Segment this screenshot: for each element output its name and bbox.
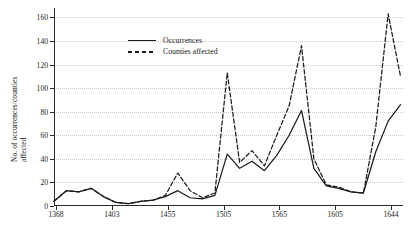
series-line-occurrences [54,105,401,204]
legend-item-occurrences: Occurrences [128,35,218,46]
y-axis-title: No. of occurrences/counties affected [1,34,23,164]
chart-legend: Occurrences Counties affected [128,35,218,57]
y-tick-label: 120 [37,60,48,69]
solid-line-key [128,40,156,41]
series-line-counties-affected [54,14,401,204]
y-tick-label: 80 [40,107,48,116]
x-tick-label: 1505 [216,210,231,219]
y-axis-title-line-2: affected [19,138,28,162]
legend-label-counties-affected: Counties affected [163,47,218,56]
x-tick-label: 1605 [328,210,343,219]
chart-figure: No. of occurrences/counties affected 020… [0,0,411,236]
legend-label-occurrences: Occurrences [163,36,202,45]
x-tick-label: 1403 [104,210,119,219]
y-tick-label: 100 [37,84,48,93]
x-tick-label: 1368 [48,210,63,219]
y-tick-label: 20 [40,178,48,187]
y-tick-mark [50,206,54,207]
legend-item-counties-affected: Counties affected [128,46,218,57]
x-tick-label: 1455 [160,210,175,219]
y-axis-title-line-1: No. of occurrences/counties [10,77,19,162]
plot-area: 020406080100120140160 136814031455150515… [54,8,403,206]
y-tick-label: 140 [37,37,48,46]
y-tick-label: 40 [40,154,48,163]
data-series-layer [54,8,403,206]
dashed-line-key [128,51,156,53]
y-tick-label: 60 [40,131,48,140]
x-tick-label: 1644 [383,210,398,219]
y-tick-label: 160 [37,13,48,22]
x-tick-label: 1565 [272,210,287,219]
